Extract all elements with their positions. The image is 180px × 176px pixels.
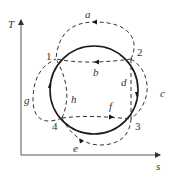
main-cycle [48,46,138,134]
path-h [56,59,67,118]
point-2-label: 2 [137,46,143,58]
path-a-label: a [85,8,91,20]
path-c-label: c [160,87,165,99]
path-a-arrow-icon [92,20,97,25]
path-g [33,59,62,121]
path-e-arrow-icon [79,139,84,144]
path-a [56,22,134,59]
path-f [62,116,131,119]
path-d-label: d [121,76,127,88]
alternative-paths: a b c d e f g h [24,8,165,154]
point-1-label: 1 [46,50,52,62]
ts-diagram: T s a b c d e f g [0,0,180,176]
x-axis-label: s [156,160,160,172]
point-4-label: 4 [52,120,58,132]
path-f-arrow-icon [109,115,114,120]
path-e [62,118,131,145]
path-b-arrow-icon [94,60,99,65]
path-h-label: h [71,93,77,105]
path-g-label: g [24,94,30,106]
path-e-label: e [73,142,78,154]
y-axis-label: T [8,18,15,30]
point-3-label: 3 [135,120,141,132]
path-b-label: b [93,66,99,78]
path-b [56,59,131,62]
path-f-label: f [109,100,114,112]
